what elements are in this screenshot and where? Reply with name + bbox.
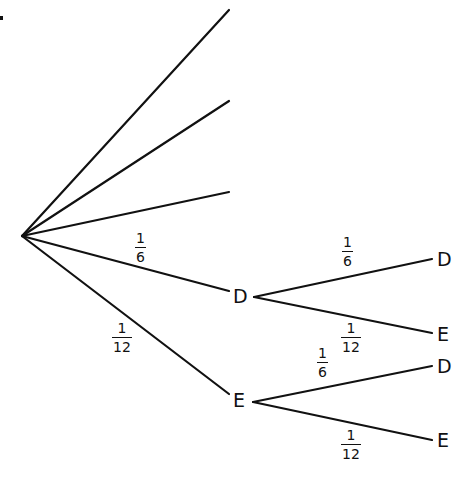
node-D-E: E <box>437 325 449 344</box>
numerator: 1 <box>345 321 356 335</box>
prob-root-E: 1 12 <box>112 321 132 354</box>
node-D-D: D <box>437 250 452 269</box>
branch-root-E <box>22 236 229 394</box>
prob-D-D: 1 6 <box>342 235 353 268</box>
branch-root-2 <box>22 101 229 236</box>
branch-root-3 <box>22 192 229 236</box>
fraction-bar <box>317 362 328 363</box>
node-E: E <box>233 391 245 410</box>
node-E-D: D <box>437 357 452 376</box>
numerator: 1 <box>116 321 127 335</box>
numerator: 1 <box>342 235 353 249</box>
prob-E-D: 1 6 <box>317 346 328 379</box>
denominator: 6 <box>317 365 328 379</box>
prob-root-D: 1 6 <box>135 231 146 264</box>
denominator: 12 <box>341 447 361 461</box>
numerator: 1 <box>345 428 356 442</box>
tree-branches <box>0 0 460 482</box>
prob-D-E: 1 12 <box>341 321 361 354</box>
node-D: D <box>233 287 248 306</box>
fraction-bar <box>341 444 361 445</box>
branch-root-D <box>22 236 229 291</box>
numerator: 1 <box>135 231 146 245</box>
fraction-bar <box>112 337 132 338</box>
denominator: 12 <box>112 340 132 354</box>
node-E-E: E <box>437 431 449 450</box>
branch-E-D <box>253 366 432 402</box>
prob-E-E: 1 12 <box>341 428 361 461</box>
denominator: 12 <box>341 340 361 354</box>
denominator: 6 <box>135 250 146 264</box>
fraction-bar <box>342 251 353 252</box>
fraction-bar <box>341 337 361 338</box>
fraction-bar <box>135 247 146 248</box>
numerator: 1 <box>317 346 328 360</box>
denominator: 6 <box>342 254 353 268</box>
branch-root-1 <box>22 10 229 236</box>
